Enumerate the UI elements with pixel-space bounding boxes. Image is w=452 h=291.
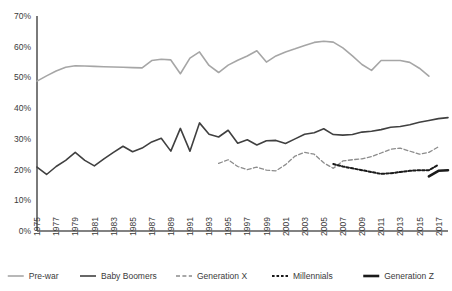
x-axis-tick-label: 1993 — [204, 217, 214, 236]
y-axis-tick-label: 10% — [14, 195, 31, 205]
y-axis-tick-label: 20% — [14, 165, 31, 175]
x-axis-tick-label: 1975 — [32, 217, 42, 236]
x-axis-tick-label: 2007 — [338, 217, 348, 236]
x-axis-tick-label: 2005 — [319, 217, 329, 236]
series-line-millennials — [333, 164, 438, 174]
x-axis-tick-label: 1985 — [128, 217, 138, 236]
x-axis-tick-label: 2011 — [376, 217, 386, 236]
y-axis-tick-label: 60% — [14, 42, 31, 52]
x-axis-tick-label: 1983 — [109, 217, 119, 236]
x-axis-tick-label: 1997 — [242, 217, 252, 236]
x-axis-tick-label: 1979 — [70, 217, 80, 236]
x-axis-tick-label: 1977 — [51, 217, 61, 236]
y-axis-tick-label: 30% — [14, 134, 31, 144]
x-axis-tick-label: 1989 — [166, 217, 176, 236]
series-line-generation-x — [219, 147, 439, 171]
legend-label-pre-war: Pre-war — [29, 271, 59, 281]
series-line-pre-war — [37, 41, 429, 81]
chart-container: 0%10%20%30%40%50%60%70% 1975197719791981… — [0, 0, 452, 291]
axis-lines — [37, 16, 448, 231]
x-axis-tick-label: 2009 — [357, 217, 367, 236]
y-axis-tick-labels: 0%10%20%30%40%50%60%70% — [14, 11, 31, 236]
x-axis-tick-label: 2001 — [281, 217, 291, 236]
x-axis-tick-label: 2015 — [415, 217, 425, 236]
y-axis-tick-label: 0% — [19, 226, 32, 236]
series-line-baby-boomers — [37, 118, 448, 175]
legend-label-millennials: Millennials — [293, 271, 333, 281]
x-axis-tick-label: 2013 — [395, 217, 405, 236]
legend-label-baby-boomers: Baby Boomers — [101, 271, 157, 281]
x-axis-tick-label: 2003 — [300, 217, 310, 236]
y-axis-tick-label: 70% — [14, 11, 31, 21]
series-lines — [37, 41, 448, 176]
x-axis-tick-label: 2017 — [434, 217, 444, 236]
x-axis-tick-label: 1991 — [185, 217, 195, 236]
x-axis-tick-label: 1995 — [223, 217, 233, 236]
legend-label-generation-x: Generation X — [197, 271, 247, 281]
y-axis-tick-label: 50% — [14, 72, 31, 82]
line-chart: 0%10%20%30%40%50%60%70% 1975197719791981… — [0, 0, 452, 291]
x-axis-tick-label: 1999 — [262, 217, 272, 236]
y-axis-tick-label: 40% — [14, 103, 31, 113]
series-line-generation-z — [429, 170, 448, 176]
x-axis-tick-label: 1981 — [90, 217, 100, 236]
x-axis-tick-label: 1987 — [147, 217, 157, 236]
chart-legend: Pre-warBaby BoomersGeneration XMillennia… — [8, 271, 434, 281]
x-axis-tick-labels: 1975197719791981198319851987198919911993… — [32, 217, 443, 236]
legend-label-generation-z: Generation Z — [384, 271, 434, 281]
